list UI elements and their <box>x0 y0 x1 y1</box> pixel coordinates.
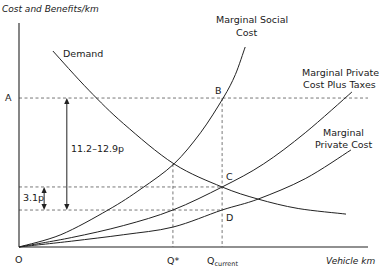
label-msc-line2: Cost <box>236 27 257 38</box>
label-mpc-line2: Private Cost <box>315 139 373 150</box>
annotation-label-tax: 3.1p <box>23 192 44 203</box>
label-msc-line1: Marginal Social <box>216 14 288 25</box>
curve-marginal-social-cost <box>19 47 245 247</box>
tick-label-qcurrent-sub: current <box>214 260 238 268</box>
tick-label-A: A <box>5 92 12 103</box>
annotation-label-range: 11.2–12.9p <box>71 143 124 154</box>
tick-label-qstar: Q* <box>167 255 179 266</box>
arrowhead-down-icon <box>64 204 69 210</box>
tick-label-qcurrent-main: Q <box>207 255 214 266</box>
annotation-arrows <box>42 98 70 210</box>
externality-chart: Cost and Benefits/km Vehicle km O Q* Qcu… <box>0 0 379 271</box>
label-mpct-line1: Marginal Private <box>302 67 379 78</box>
tick-label-qcurrent: Qcurrent <box>207 255 238 268</box>
arrowhead-up-icon <box>64 98 69 104</box>
point-label-D: D <box>226 212 233 223</box>
arrowhead-down-icon <box>42 204 47 210</box>
point-label-C: C <box>226 171 233 182</box>
label-mpc-line1: Marginal <box>323 127 364 138</box>
y-axis-title: Cost and Benefits/km <box>2 4 99 14</box>
origin-label: O <box>15 254 22 265</box>
label-mpct-line2: Cost Plus Taxes <box>303 79 376 90</box>
point-label-B: B <box>215 85 222 96</box>
label-demand: Demand <box>63 48 103 59</box>
x-axis-title: Vehicle km <box>326 256 375 266</box>
curve-marginal-private-cost <box>19 150 351 247</box>
